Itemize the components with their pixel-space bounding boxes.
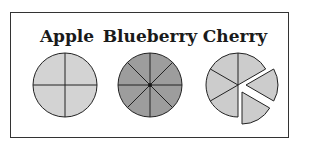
pies-canvas bbox=[0, 0, 309, 145]
pie-cherry bbox=[206, 53, 278, 124]
pie-blueberry bbox=[118, 53, 182, 117]
pie-apple bbox=[33, 53, 97, 117]
